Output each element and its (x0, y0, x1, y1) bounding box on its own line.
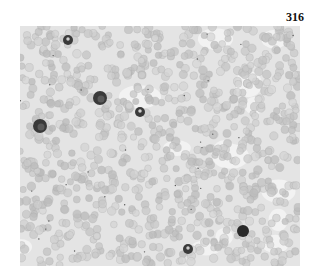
lymphocyte-cell (33, 119, 47, 133)
lymphocyte-cell (93, 91, 107, 105)
segmented-leukocyte-cell (183, 244, 193, 254)
segmented-leukocyte-cell (135, 107, 145, 117)
segmented-leukocyte-cell (63, 35, 73, 45)
figure-number: 316 (286, 10, 304, 25)
red-blood-cell-field (20, 26, 300, 266)
blood-smear-micrograph (20, 26, 300, 266)
small-lymphocyte-cell (237, 225, 249, 237)
